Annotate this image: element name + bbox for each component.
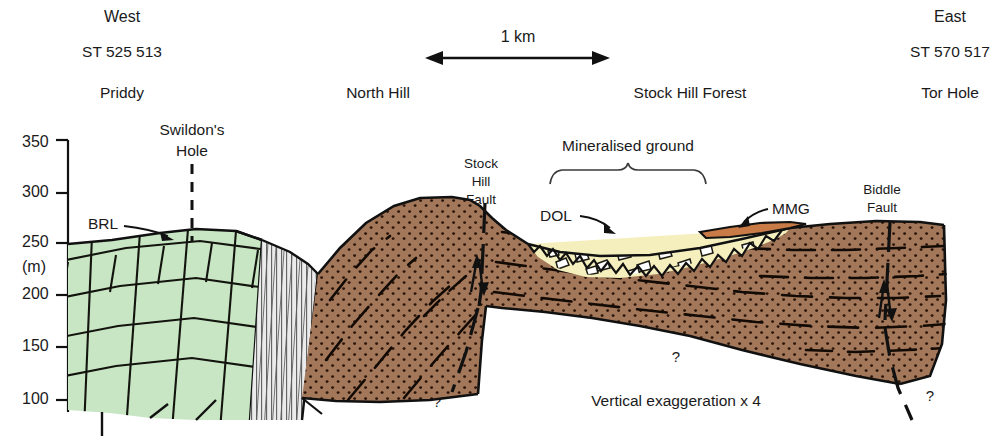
dol-leader-arrow — [580, 216, 616, 234]
unit-brl — [44, 229, 268, 430]
elevation-axis — [56, 140, 68, 412]
mineralised-ground-brace — [550, 163, 706, 184]
scalebar — [425, 51, 610, 65]
cross-section-figure: West ST 525 513 East ST 570 517 1 km Pri… — [0, 0, 993, 444]
unit-portishead-formation — [302, 197, 946, 402]
cross-section-graphic — [0, 0, 993, 444]
